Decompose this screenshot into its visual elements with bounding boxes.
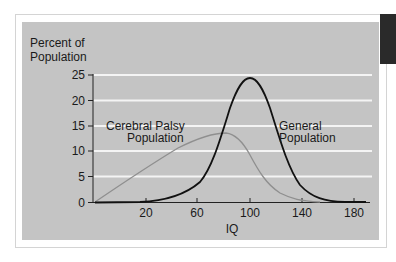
cerebral-palsy-label-line2: Population (127, 131, 184, 145)
x-tick-label: 60 (190, 206, 204, 220)
x-tick-label: 100 (240, 206, 260, 220)
x-tick-label: 140 (292, 206, 312, 220)
x-axis-title: IQ (226, 222, 239, 236)
x-tick-label: 180 (344, 206, 364, 220)
y-tick-label: 25 (72, 68, 86, 82)
iq-distribution-chart: Percent of Population 25 20 15 10 5 0 20… (0, 0, 396, 262)
y-axis-title-line2: Population (30, 50, 87, 64)
y-tick-label: 10 (72, 144, 86, 158)
y-tick-label: 15 (72, 119, 86, 133)
y-tick-label: 20 (72, 94, 86, 108)
x-tick-label: 20 (139, 206, 153, 220)
y-tick-label: 5 (78, 170, 85, 184)
y-axis-title-line1: Percent of (30, 36, 85, 50)
y-tick-label: 0 (78, 196, 85, 210)
general-population-label-line2: Population (279, 131, 336, 145)
